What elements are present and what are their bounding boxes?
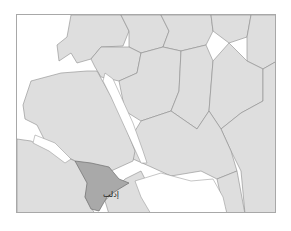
map-canvas[interactable] [17,15,276,213]
region-north-3 [211,15,251,43]
highlight-label: إدلب [103,190,119,199]
region-north-east [247,15,276,69]
water-bay [135,173,227,213]
map-frame: إدلب [16,14,276,213]
